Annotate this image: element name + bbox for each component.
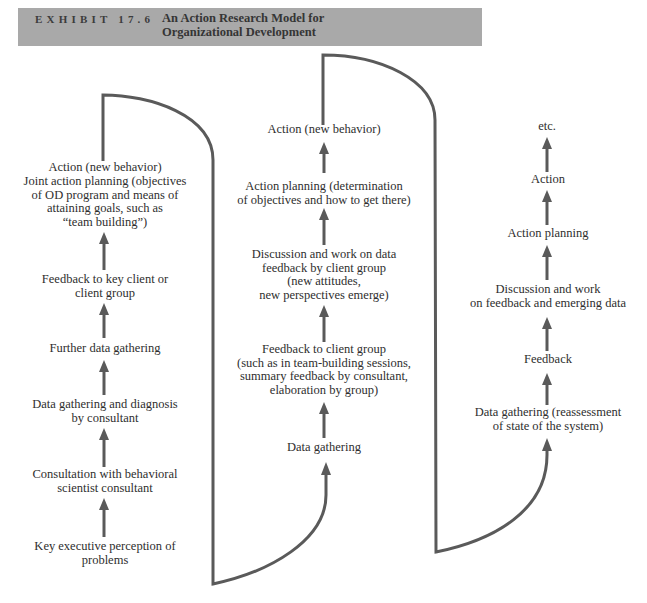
step-etc: etc. [437, 120, 647, 134]
arrow-up-icon [99, 303, 109, 338]
arrow-up-icon [542, 317, 552, 351]
step-text-line: of objectives and how to get there) [214, 194, 434, 208]
step-joint-action-planning: Joint action planning (objectives of OD … [0, 175, 215, 229]
step-text-line: “team building”) [0, 216, 215, 230]
step-text-line: Discussion and work on data [214, 248, 434, 262]
step-key-executive-perception: Key executive perception of problems [0, 540, 215, 567]
step-feedback: Feedback [438, 353, 647, 367]
step-text-line: by consultant [0, 412, 215, 426]
arrow-up-icon [99, 428, 109, 467]
step-text-line: (such as in team-building sessions, [214, 357, 434, 371]
step-data-gathering-reassessment: Data gathering (reassessment of state of… [438, 406, 647, 433]
step-text-line: etc. [437, 120, 647, 134]
step-text-line: client group [0, 287, 215, 301]
arrow-up-icon [319, 402, 329, 438]
step-action-new-behavior: Action (new behavior) [0, 161, 215, 175]
step-text-line: scientist consultant [0, 482, 215, 496]
step-text-line: Discussion and work [438, 283, 647, 297]
step-text-line: problems [0, 554, 215, 568]
step-text-line: Action (new behavior) [0, 161, 215, 175]
step-action-new-behavior: Action (new behavior) [214, 123, 434, 137]
arrow-up-icon [542, 137, 552, 172]
step-text-line: Further data gathering [0, 342, 215, 356]
arrow-up-icon [99, 498, 109, 537]
step-text-line: summary feedback by consultant, [214, 370, 434, 384]
step-action: Action [438, 173, 647, 187]
step-further-data-gathering: Further data gathering [0, 342, 215, 356]
arrow-up-icon [319, 208, 329, 245]
step-text-line: Feedback to key client or [0, 273, 215, 287]
step-text-line: Action planning (determination [214, 180, 434, 194]
step-text-line: Joint action planning (objectives [0, 175, 215, 189]
step-text-line: elaboration by group) [214, 384, 434, 398]
arrowhead-icon [542, 438, 552, 451]
step-feedback-client-group: Feedback to client group (such as in tea… [214, 343, 434, 397]
arrow-up-icon [542, 245, 552, 280]
arrow-up-icon [542, 373, 552, 405]
step-text-line: of OD program and means of [0, 189, 215, 203]
step-text-line: Data gathering and diagnosis [0, 398, 215, 412]
arrow-up-icon [542, 190, 552, 225]
step-text-line: (new attitudes, [214, 275, 434, 289]
step-text-line: of state of the system) [438, 420, 647, 434]
arrow-up-icon [99, 232, 109, 270]
step-data-gathering: Data gathering [214, 441, 434, 455]
step-text-line: Action planning [438, 227, 647, 241]
step-text-line: Action (new behavior) [214, 123, 434, 137]
step-text-line: feedback by client group [214, 262, 434, 276]
step-action-planning: Action planning [438, 227, 647, 241]
step-consultation: Consultation with behavioral scientist c… [0, 468, 215, 495]
arrow-up-icon [319, 142, 329, 173]
step-text-line: Feedback [438, 353, 647, 367]
step-text-line: Data gathering [214, 441, 434, 455]
arrow-up-icon [99, 360, 109, 395]
step-text-line: on feedback and emerging data [438, 297, 647, 311]
arrowhead-icon [321, 462, 331, 475]
step-text-line: attaining goals, such as [0, 202, 215, 216]
step-text-line: Key executive perception of [0, 540, 215, 554]
step-text-line: Action [438, 173, 647, 187]
step-text-line: new perspectives emerge) [214, 289, 434, 303]
step-text-line: Consultation with behavioral [0, 468, 215, 482]
step-text-line: Data gathering (reassessment [438, 406, 647, 420]
step-text-line: Feedback to client group [214, 343, 434, 357]
step-discussion-work-data: Discussion and work on data feedback by … [214, 248, 434, 302]
step-feedback-key-client: Feedback to key client or client group [0, 273, 215, 300]
step-data-gathering-diagnosis: Data gathering and diagnosis by consulta… [0, 398, 215, 425]
arrow-up-icon [319, 305, 329, 342]
step-discussion-work-feedback: Discussion and work on feedback and emer… [438, 283, 647, 310]
step-action-planning-determination: Action planning (determination of object… [214, 180, 434, 207]
